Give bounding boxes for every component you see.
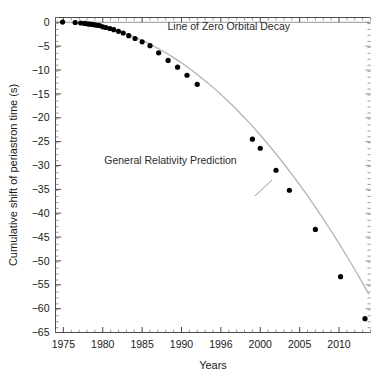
x-axis-title: Years <box>199 359 227 371</box>
data-point <box>195 82 200 87</box>
gr-prediction-label: General Relativity Prediction <box>104 154 237 166</box>
zero-decay-label: Line of Zero Orbital Decay <box>167 20 290 32</box>
data-point <box>126 33 131 38</box>
y-tick-label: −30 <box>32 159 50 171</box>
data-point <box>166 58 171 63</box>
x-tick-label: 1990 <box>170 338 194 350</box>
data-point <box>184 73 189 78</box>
data-point <box>156 50 161 55</box>
data-point <box>60 19 65 24</box>
x-tick-label: 1975 <box>52 338 76 350</box>
y-tick-label: −55 <box>32 278 50 290</box>
y-tick-label: −65 <box>32 326 50 338</box>
data-point <box>121 30 126 35</box>
data-point <box>116 29 121 34</box>
x-tick-label: 2005 <box>288 338 312 350</box>
y-axis-title: Cumulative shift of periastron time (s) <box>7 84 19 266</box>
data-point <box>250 137 255 142</box>
y-tick-label: −10 <box>32 64 50 76</box>
y-tick-label: −50 <box>32 255 50 267</box>
orbital-decay-chart: 19751980198519901996200020052010 0−5−10−… <box>0 0 386 380</box>
y-tick-label: −5 <box>38 40 50 52</box>
data-point <box>313 227 318 232</box>
x-tick-label: 2010 <box>327 338 351 350</box>
data-point <box>132 36 137 41</box>
data-point <box>258 146 263 151</box>
y-tick-label: −40 <box>32 207 50 219</box>
data-point <box>287 188 292 193</box>
y-tick-label: −15 <box>32 88 50 100</box>
data-point <box>175 65 180 70</box>
x-tick-label: 1980 <box>91 338 115 350</box>
data-point <box>273 168 278 173</box>
data-point <box>362 316 367 321</box>
data-point <box>140 39 145 44</box>
y-tick-label: −35 <box>32 183 50 195</box>
data-point <box>73 20 78 25</box>
chart-figure: 19751980198519901996200020052010 0−5−10−… <box>0 0 386 380</box>
y-tick-label: −20 <box>32 111 50 123</box>
data-point <box>111 27 116 32</box>
x-tick-label: 1985 <box>130 338 154 350</box>
data-point <box>147 43 152 48</box>
y-tick-label: 0 <box>44 16 50 28</box>
chart-background <box>0 0 386 380</box>
x-tick-label: 2000 <box>249 338 273 350</box>
y-tick-label: −60 <box>32 302 50 314</box>
data-point <box>338 274 343 279</box>
y-tick-label: −45 <box>32 231 50 243</box>
y-tick-label: −25 <box>32 135 50 147</box>
x-tick-label: 1996 <box>209 338 233 350</box>
